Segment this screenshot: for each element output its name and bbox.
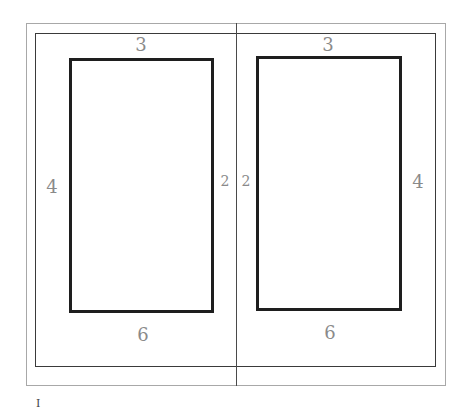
right-inner-margin-label: 2 xyxy=(234,174,258,188)
spine-divider xyxy=(236,23,237,386)
right-text-block xyxy=(256,56,402,311)
right-top-margin-label: 3 xyxy=(316,36,340,54)
left-top-margin-label: 3 xyxy=(129,36,153,54)
page-number: I xyxy=(36,398,40,409)
left-text-block xyxy=(69,58,214,313)
right-bottom-margin-label: 6 xyxy=(318,324,342,342)
right-outer-margin-label: 4 xyxy=(406,173,430,191)
left-bottom-margin-label: 6 xyxy=(131,326,155,344)
left-outer-margin-label: 4 xyxy=(40,178,64,196)
